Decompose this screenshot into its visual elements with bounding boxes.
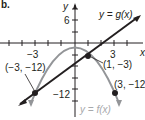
tick-label-6: 6 [64,15,70,26]
x-axis-label: x [139,47,145,58]
tick-label-neg3: −3 [27,49,39,60]
g-label: y = g(x) [98,9,133,20]
point-neg3-neg12 [32,90,38,96]
point-1-neg3 [85,53,91,59]
point-3-neg12 [112,90,118,96]
y-axis-label: y [62,1,69,12]
y-axis-arrow-icon [73,3,77,9]
f-right-arrow-icon [116,100,122,107]
panel-label: b. [1,0,10,10]
point-label-c: (3, −12 [114,79,145,90]
leader-a [25,74,34,90]
chart-canvas: b. y x −3 3 6 −12 y = g(x) y = f(x) (−3,… [0,0,145,120]
f-label: y = f(x) [79,104,111,115]
tick-label-neg12: −12 [53,89,70,100]
point-label-b: (1, −3) [103,59,132,70]
point-label-a: (−3, −12) [5,62,46,73]
f-left-arrow-icon [28,100,34,107]
